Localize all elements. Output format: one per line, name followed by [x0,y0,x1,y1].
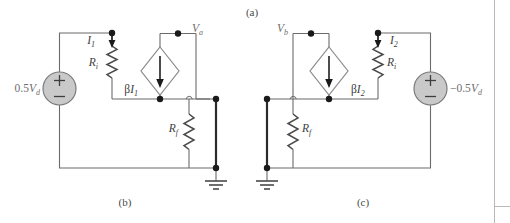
node-c-dep-bottom [326,96,332,102]
node-b-bus-bottom [213,165,219,171]
source-b-label: 0.5Vd [15,82,41,97]
node-b-ri-top [109,30,115,36]
resistor-c-ri [373,46,383,78]
wire-b-bottom-rail [60,105,217,168]
node-c-vb-top [308,30,314,36]
node-voltage-c-label: Vb [277,22,288,37]
resistor-b-rf [184,114,194,150]
resistor-b-rf-label: Rf [168,122,180,137]
node-b-vo-top [175,30,181,36]
node-c-bus-top [264,96,270,102]
circuit-b: 0.5Vd I1 Ri Rf βI1 Va (b) [15,22,227,209]
circuit-c: Vb βI2 Rf Ri I2 −0.5Vd (c) [256,22,483,209]
resistor-b-ri [107,46,117,78]
node-c-ri-top [375,30,381,36]
wire-b-source-to-ri-top [60,33,113,72]
caption-b: (b) [119,196,132,209]
resistor-c-rf-label: Rf [301,122,313,137]
resistor-b-ri-label: Ri [88,56,98,71]
source-c-label: −0.5Vd [450,82,483,97]
node-c-bus-bottom [264,165,270,171]
resistor-c-rf [288,114,298,150]
dependent-source-c-label: βI2 [351,83,365,98]
caption-a: (a) [246,6,259,19]
resistor-c-ri-label: Ri [386,56,396,71]
node-voltage-b-label: Va [192,22,203,37]
caption-c: (c) [357,196,370,209]
circuit-figure: (a) [0,0,510,223]
wire-c-top-to-source [378,33,431,72]
node-b-dep-bottom [157,96,163,102]
current-b-label: I1 [86,34,95,49]
current-c-label: I2 [389,34,398,49]
figure-page: (a) [0,0,510,223]
dependent-source-b-label: βI1 [124,83,138,98]
node-b-bus-top [213,96,219,102]
